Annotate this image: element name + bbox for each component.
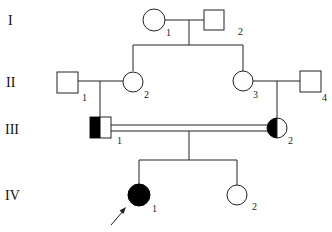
- generation-label-2: II: [6, 75, 16, 90]
- individual-number: 4: [322, 92, 327, 103]
- individual-number: 2: [252, 201, 257, 212]
- individual-I-2-male: [204, 10, 224, 30]
- pedigree-chart: I II III IV 1 2 1 2 3 4 1 2 1 2: [0, 0, 332, 232]
- individual-number: 1: [82, 92, 87, 103]
- individual-I-1-female: [143, 9, 165, 31]
- individual-number: 3: [253, 89, 258, 100]
- individual-III-2-female-carrier: [267, 118, 287, 138]
- individual-number: 2: [288, 135, 293, 146]
- generation-label-4: IV: [5, 188, 20, 203]
- individual-number: 1: [117, 135, 122, 146]
- individual-III-1-male-carrier: [90, 117, 111, 138]
- individual-II-2-female: [123, 72, 143, 92]
- generation-label-1: I: [8, 13, 13, 28]
- generation-label-3: III: [5, 122, 19, 137]
- individual-II-1-male: [57, 72, 78, 93]
- individual-number: 1: [166, 27, 171, 38]
- individual-number: 2: [238, 26, 243, 37]
- individual-IV-2-female: [227, 185, 247, 205]
- proband-arrow-icon: [111, 207, 126, 225]
- individual-II-3-female: [233, 71, 253, 91]
- individual-II-4-male: [300, 71, 321, 92]
- individual-number: 1: [152, 203, 157, 214]
- individual-IV-1-affected-female: [128, 184, 150, 206]
- individual-number: 2: [144, 89, 149, 100]
